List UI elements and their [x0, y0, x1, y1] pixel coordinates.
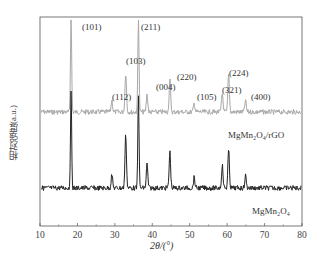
- peak-label: (004): [156, 82, 176, 92]
- y-axis-label: 相对强度(a.u.): [6, 98, 20, 168]
- peak-annotations: (101)(112)(103)(211)(004)(220)(105)(321)…: [82, 22, 271, 102]
- series-label-pure: MgMn₂O₄: [252, 206, 290, 216]
- peak-label: (103): [126, 56, 146, 66]
- x-tick-label: 30: [110, 230, 120, 240]
- series-group: [41, 20, 301, 191]
- x-tick-label: 80: [297, 230, 307, 240]
- x-axis-ticks: 1020304050607080: [35, 223, 307, 240]
- series-label-rgo: MgMn₂O₄/rGO: [228, 130, 284, 140]
- peak-label: (321): [222, 85, 242, 95]
- x-tick-label: 10: [35, 230, 45, 240]
- peak-label: (224): [229, 68, 249, 78]
- x-tick-label: 20: [73, 230, 83, 240]
- x-tick-label: 70: [260, 230, 270, 240]
- peak-label: (400): [251, 92, 271, 102]
- x-tick-label: 40: [148, 230, 158, 240]
- peak-label: (105): [197, 92, 217, 102]
- peak-label: (211): [141, 22, 160, 32]
- peak-label: (220): [177, 72, 197, 82]
- plot-frame: [40, 17, 302, 226]
- x-tick-label: 50: [185, 230, 195, 240]
- peak-label: (112): [112, 92, 131, 102]
- x-axis-label: 2θ/(°): [150, 240, 173, 251]
- x-tick-label: 60: [222, 230, 232, 240]
- peak-label: (101): [82, 22, 102, 32]
